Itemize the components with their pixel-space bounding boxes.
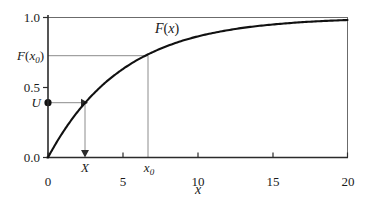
- y-label-fx0-f: F: [17, 48, 25, 63]
- x-label-x0: x0: [135, 161, 163, 177]
- y-label-fx0: F(x0): [0, 49, 44, 65]
- x-label-sample: X: [71, 161, 99, 174]
- cdf-inverse-transform-figure: 1.0 0.5 0.0 F(x0) U 0 5 10 15 20 X x0 x …: [0, 0, 380, 197]
- curve-label-fx: F(x): [155, 22, 179, 36]
- x-tick-label-5: 5: [109, 175, 137, 188]
- arrowhead-down-icon: [81, 150, 89, 158]
- plot-canvas: [0, 0, 380, 197]
- cdf-curve: [48, 20, 348, 157]
- x-tick-label-20: 20: [334, 175, 362, 188]
- y-label-fx0-close-paren: ): [40, 48, 44, 63]
- x-axis-title: x: [184, 183, 212, 197]
- curve-label-close-paren: ): [174, 21, 179, 36]
- x-label-x0-subscript: 0: [150, 167, 155, 177]
- y-tick-label-0.0: 0.0: [4, 151, 40, 164]
- x-tick-label-15: 15: [259, 175, 287, 188]
- y-tick-label-0.5: 0.5: [4, 81, 40, 94]
- y-tick-label-1.0: 1.0: [4, 11, 40, 24]
- x-tick-label-0: 0: [34, 175, 62, 188]
- y-label-u: U: [8, 96, 41, 109]
- curve-label-f: F: [155, 21, 164, 36]
